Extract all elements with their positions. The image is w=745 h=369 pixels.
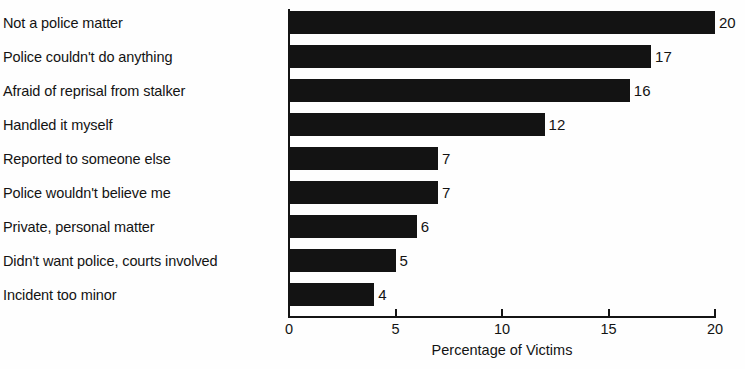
x-tick-mark (714, 309, 716, 317)
x-tick-label: 10 (482, 320, 522, 338)
bar-value-label: 7 (438, 147, 450, 170)
bar (289, 11, 715, 34)
category-label: Didn't want police, courts involved (3, 252, 286, 270)
category-label: Incident too minor (3, 286, 286, 304)
bar-value-label: 6 (417, 215, 429, 238)
category-axis: Not a police matterPolice couldn't do an… (0, 0, 286, 317)
bar (289, 45, 651, 68)
bar (289, 249, 396, 272)
bar-value-label: 16 (630, 79, 651, 102)
bar-chart-figure: Not a police matterPolice couldn't do an… (0, 0, 745, 369)
category-label: Not a police matter (3, 14, 286, 32)
bar (289, 147, 438, 170)
bar-value-label: 5 (396, 249, 408, 272)
x-tick-mark (501, 309, 503, 317)
bar-value-label: 7 (438, 181, 450, 204)
bar (289, 79, 630, 102)
y-axis-line (288, 9, 290, 318)
x-tick-mark (288, 309, 290, 317)
x-tick-label: 0 (269, 320, 309, 338)
category-label: Police wouldn't believe me (3, 184, 286, 202)
category-label: Afraid of reprisal from stalker (3, 82, 286, 100)
category-label: Police couldn't do anything (3, 48, 286, 66)
x-tick-label: 20 (695, 320, 735, 338)
category-label: Private, personal matter (3, 218, 286, 236)
bar-value-label: 17 (651, 45, 672, 68)
bar-value-label: 12 (545, 113, 566, 136)
bar-value-label: 20 (715, 11, 736, 34)
bar (289, 283, 374, 306)
x-tick-mark (608, 309, 610, 317)
x-tick-label: 5 (376, 320, 416, 338)
x-axis-title: Percentage of Victims (289, 341, 715, 359)
bar (289, 181, 438, 204)
x-tick-mark (395, 309, 397, 317)
bar (289, 113, 545, 136)
category-label: Handled it myself (3, 116, 286, 134)
category-label: Reported to someone else (3, 150, 286, 168)
bar (289, 215, 417, 238)
x-tick-label: 15 (589, 320, 629, 338)
plot-area: 2017161277654 (289, 0, 745, 317)
bar-value-label: 4 (374, 283, 386, 306)
